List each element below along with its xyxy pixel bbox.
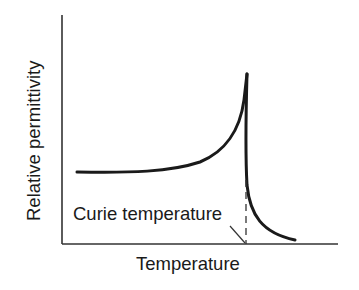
curie-pointer-line <box>230 226 245 243</box>
permittivity-curve-falling <box>246 74 295 240</box>
permittivity-diagram: Curie temperature Temperature Relative p… <box>0 0 359 290</box>
curie-temperature-label: Curie temperature <box>73 203 222 224</box>
x-axis-label: Temperature <box>136 253 240 274</box>
y-axis-label: Relative permittivity <box>23 60 44 221</box>
permittivity-curve-rising <box>77 74 247 172</box>
